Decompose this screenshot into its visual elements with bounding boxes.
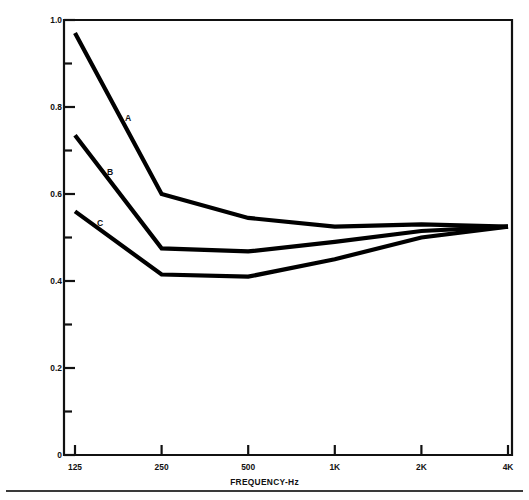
y-axis-tick-labels: 00.20.40.60.81.0: [28, 0, 62, 500]
y-tick-label: 0: [28, 450, 62, 460]
series-label-c: C: [97, 218, 103, 228]
x-axis-title: FREQUENCY-Hz: [0, 477, 529, 487]
series-lines: [75, 33, 508, 277]
x-tick-label: 1K: [313, 462, 357, 472]
series-label-b: B: [107, 167, 113, 177]
x-tick-label: 250: [140, 462, 184, 472]
footer-rule: [6, 490, 523, 492]
x-tick-label: 500: [226, 462, 270, 472]
y-tick-label: 1.0: [28, 15, 62, 25]
series-line-a: [75, 33, 508, 227]
series-label-a: A: [125, 113, 131, 123]
x-axis-ticks: [75, 445, 508, 455]
x-tick-label: 2K: [399, 462, 443, 472]
axes-frame: [64, 20, 512, 455]
plot-area: [0, 0, 529, 500]
x-tick-label: 125: [53, 462, 97, 472]
y-tick-label: 0.6: [28, 189, 62, 199]
y-axis-ticks: [64, 20, 75, 455]
y-tick-label: 0.4: [28, 276, 62, 286]
y-tick-label: 0.8: [28, 102, 62, 112]
y-tick-label: 0.2: [28, 363, 62, 373]
x-tick-label: 4K: [486, 462, 529, 472]
reverberation-time-chart: REVERBERATION TIME SEC. 00.20.40.60.81.0…: [0, 0, 529, 500]
